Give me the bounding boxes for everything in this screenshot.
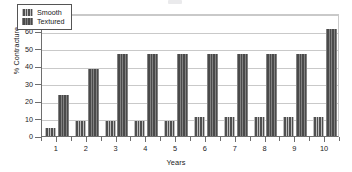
bar-textured-year-6 — [207, 54, 218, 136]
bar-chart-figure: % Contracture Years 01020304050607012345… — [0, 0, 352, 172]
bar-smooth-year-1 — [45, 128, 56, 136]
plot-area — [41, 14, 339, 137]
x-axis-minor-tick — [190, 137, 191, 141]
gridline — [42, 103, 338, 104]
x-axis-minor-tick — [339, 137, 340, 141]
y-axis-tick-label: 40 — [8, 63, 33, 70]
x-axis-tick — [294, 137, 295, 142]
x-axis-minor-tick — [160, 137, 161, 141]
x-axis-minor-tick — [220, 137, 221, 141]
bar-smooth-year-5 — [164, 121, 175, 136]
x-axis-tick-label-1: 1 — [44, 145, 68, 153]
x-axis-tick-label-6: 6 — [193, 145, 217, 153]
x-axis-tick — [205, 137, 206, 142]
bar-textured-year-5 — [177, 54, 188, 136]
x-axis-tick — [86, 137, 87, 142]
x-axis-minor-tick — [101, 137, 102, 141]
x-axis-minor-tick — [130, 137, 131, 141]
x-axis-tick-label-9: 9 — [282, 145, 306, 153]
bar-textured-year-1 — [58, 95, 69, 136]
x-axis-tick-label-4: 4 — [133, 145, 157, 153]
bar-textured-year-2 — [88, 69, 99, 136]
x-axis-tick-label-3: 3 — [104, 145, 128, 153]
legend-swatch-textured-icon — [22, 18, 33, 25]
scan-artifact — [168, 0, 182, 4]
y-axis-tick-label: 50 — [8, 46, 33, 53]
chart-legend: Smooth Textured — [17, 4, 72, 30]
x-axis-tick-label-10: 10 — [312, 145, 336, 153]
legend-label-smooth: Smooth — [37, 9, 62, 17]
gridline — [42, 33, 338, 34]
gridline — [42, 15, 338, 16]
bar-smooth-year-9 — [283, 117, 294, 136]
x-axis-label: Years — [0, 158, 352, 167]
x-axis-tick-label-7: 7 — [223, 145, 247, 153]
bar-smooth-year-2 — [75, 121, 86, 136]
x-axis-minor-tick — [250, 137, 251, 141]
x-axis-minor-tick — [71, 137, 72, 141]
x-axis-tick — [56, 137, 57, 142]
x-axis-minor-tick — [279, 137, 280, 141]
bar-smooth-year-3 — [105, 121, 116, 136]
gridline — [42, 85, 338, 86]
legend-swatch-smooth-icon — [22, 9, 33, 16]
x-axis-tick-label-8: 8 — [253, 145, 277, 153]
y-axis-tick-label: 10 — [8, 116, 33, 123]
bar-textured-year-10 — [326, 29, 337, 136]
y-axis-tick-label: 20 — [8, 98, 33, 105]
x-axis-tick — [324, 137, 325, 142]
x-axis-tick — [175, 137, 176, 142]
bar-smooth-year-6 — [194, 117, 205, 136]
y-axis-tick-label: 30 — [8, 81, 33, 88]
bar-smooth-year-7 — [224, 117, 235, 136]
x-axis-tick-label-2: 2 — [74, 145, 98, 153]
x-axis-tick — [265, 137, 266, 142]
bar-smooth-year-10 — [313, 117, 324, 136]
x-axis-tick-label-5: 5 — [163, 145, 187, 153]
y-axis-tick-label: 0 — [8, 133, 33, 140]
bar-textured-year-7 — [237, 54, 248, 136]
gridline — [42, 50, 338, 51]
bar-textured-year-4 — [147, 54, 158, 136]
legend-item-smooth: Smooth — [22, 8, 65, 17]
gridline — [42, 68, 338, 69]
x-axis-minor-tick — [309, 137, 310, 141]
bar-textured-year-8 — [266, 54, 277, 136]
x-axis-tick — [116, 137, 117, 142]
x-axis-minor-tick — [41, 137, 42, 141]
legend-label-textured: Textured — [37, 18, 65, 26]
bar-smooth-year-8 — [254, 117, 265, 136]
x-axis-tick — [235, 137, 236, 142]
bar-textured-year-9 — [296, 54, 307, 136]
bar-smooth-year-4 — [134, 121, 145, 136]
legend-item-textured: Textured — [22, 17, 65, 26]
x-axis-tick — [145, 137, 146, 142]
bar-textured-year-3 — [117, 54, 128, 136]
